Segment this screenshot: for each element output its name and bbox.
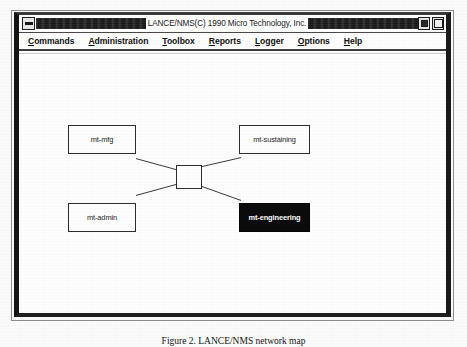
node-mt-engineering[interactable]: mt-engineering [239, 203, 310, 232]
window-menu-icon[interactable] [22, 17, 35, 30]
node-mt-admin[interactable]: mt-admin [68, 203, 136, 232]
topology-links [19, 54, 446, 313]
minimize-glyph [421, 20, 428, 27]
application-window: LANCE/NMS(C) 1990 Micro Technology, Inc.… [14, 12, 451, 317]
title-redaction-right [308, 18, 418, 29]
window-title: LANCE/NMS(C) 1990 Micro Technology, Inc. [146, 18, 309, 29]
title-bar: LANCE/NMS(C) 1990 Micro Technology, Inc. [19, 15, 446, 32]
figure-caption: Figure 2. LANCE/NMS network map [0, 336, 467, 347]
menu-bar: Commands Administration Toolbox Reports … [19, 32, 446, 51]
menu-label-options: ptions [304, 36, 329, 46]
menu-label-administration: dministration [95, 36, 149, 46]
link-hub-to-mt-engineering [202, 186, 241, 200]
window-menu-glyph [25, 22, 33, 25]
menu-item-options[interactable]: Options [298, 36, 330, 46]
node-label-mt-engineering: mt-engineering [249, 213, 301, 222]
menu-label-reports: eports [215, 36, 241, 46]
maximize-icon[interactable] [432, 17, 444, 30]
menu-item-help[interactable]: Help [344, 36, 362, 46]
topology-canvas[interactable]: mt-mfg mt-sustaining mt-admin mt-enginee… [19, 53, 446, 313]
maximize-glyph [434, 19, 443, 28]
title-redaction-left [36, 18, 146, 29]
minimize-icon[interactable] [418, 17, 430, 30]
node-mt-mfg[interactable]: mt-mfg [68, 125, 136, 154]
link-hub-to-mt-sustaining [202, 158, 241, 167]
menu-label-toolbox: oolbox [167, 36, 195, 46]
node-mt-sustaining[interactable]: mt-sustaining [239, 125, 310, 154]
menu-label-help: elp [350, 36, 362, 46]
menu-item-administration[interactable]: Administration [88, 36, 148, 46]
menu-item-logger[interactable]: Logger [255, 36, 284, 46]
node-label-mt-admin: mt-admin [87, 213, 117, 222]
link-hub-to-mt-admin [136, 184, 176, 195]
menu-label-logger: ogger [260, 36, 284, 46]
menu-item-toolbox[interactable]: Toolbox [162, 36, 194, 46]
node-label-mt-mfg: mt-mfg [91, 135, 113, 144]
menu-label-commands: ommands [34, 36, 74, 46]
scanned-page: LANCE/NMS(C) 1990 Micro Technology, Inc.… [0, 0, 467, 347]
hub-node[interactable] [176, 165, 202, 189]
link-hub-to-mt-mfg [136, 159, 176, 170]
menu-item-reports[interactable]: Reports [209, 36, 241, 46]
menu-item-commands[interactable]: Commands [28, 36, 74, 46]
node-label-mt-sustaining: mt-sustaining [253, 135, 296, 144]
